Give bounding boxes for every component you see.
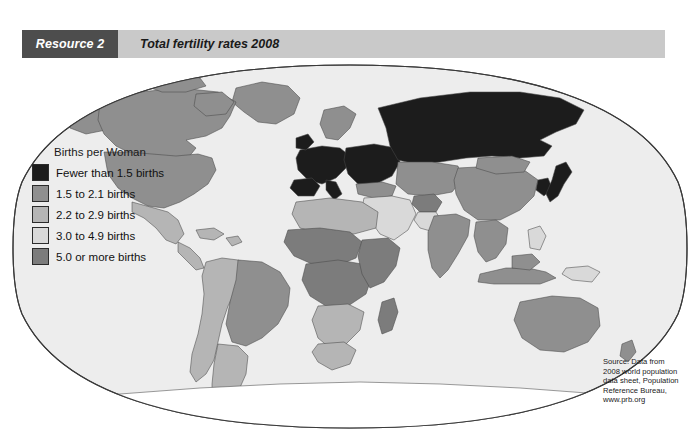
legend-label-lt1_5: Fewer than 1.5 births bbox=[56, 167, 164, 179]
legend-label-3_0-4_9: 3.0 to 4.9 births bbox=[56, 230, 135, 242]
resource-tag-label: Resource 2 bbox=[36, 37, 104, 51]
legend-item-3_0-4_9: 3.0 to 4.9 births bbox=[32, 226, 200, 245]
legend-label-gte5_0: 5.0 or more births bbox=[56, 251, 146, 263]
legend-swatch-gte5_0 bbox=[32, 248, 49, 265]
legend-swatch-lt1_5 bbox=[32, 164, 49, 181]
legend-label-2_2-2_9: 2.2 to 2.9 births bbox=[56, 209, 135, 221]
source-line-4: Reference Bureau, bbox=[603, 386, 695, 396]
map-legend: Births per Woman Fewer than 1.5 births 1… bbox=[32, 146, 200, 268]
resource-title-bar: Total fertility rates 2008 bbox=[118, 30, 665, 58]
legend-item-2_2-2_9: 2.2 to 2.9 births bbox=[32, 205, 200, 224]
source-line-2: 2008 world population bbox=[603, 367, 695, 377]
resource-header: Resource 2 Total fertility rates 2008 bbox=[22, 30, 665, 58]
source-line-1: Source: Data from bbox=[603, 357, 695, 367]
legend-swatch-1_5-2_1 bbox=[32, 185, 49, 202]
legend-item-lt1_5: Fewer than 1.5 births bbox=[32, 163, 200, 182]
legend-label-1_5-2_1: 1.5 to 2.1 births bbox=[56, 188, 135, 200]
legend-item-gte5_0: 5.0 or more births bbox=[32, 247, 200, 266]
legend-swatch-3_0-4_9 bbox=[32, 227, 49, 244]
legend-title: Births per Woman bbox=[54, 146, 200, 158]
legend-swatch-2_2-2_9 bbox=[32, 206, 49, 223]
source-attribution: Source: Data from 2008 world population … bbox=[603, 357, 695, 405]
region-central-asia bbox=[396, 162, 462, 196]
source-line-5: www.prb.org bbox=[603, 395, 695, 405]
source-line-3: data sheet, Population bbox=[603, 376, 695, 386]
resource-tag: Resource 2 bbox=[22, 30, 118, 58]
legend-item-1_5-2_1: 1.5 to 2.1 births bbox=[32, 184, 200, 203]
page-title: Total fertility rates 2008 bbox=[140, 37, 279, 51]
